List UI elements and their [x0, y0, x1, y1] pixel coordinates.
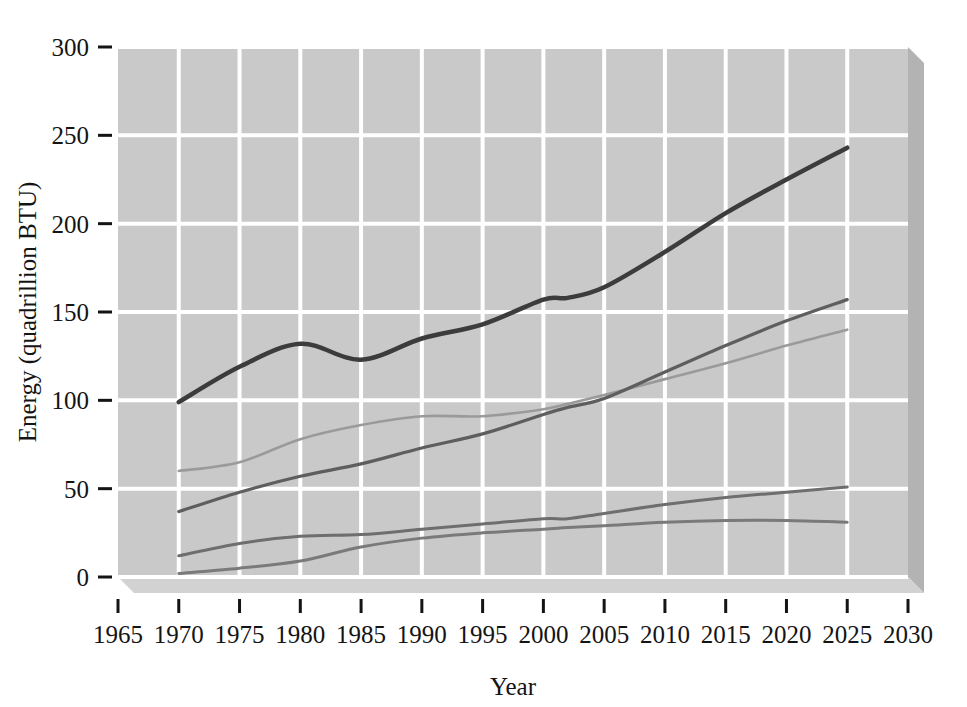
x-tick-label: 1980 [275, 621, 325, 648]
plot-bevel-right [908, 47, 924, 593]
y-tick-label: 100 [52, 387, 90, 414]
y-tick-label: 300 [52, 34, 90, 61]
y-tick-label: 0 [77, 564, 90, 591]
x-tick-label: 2020 [761, 621, 811, 648]
y-tick-label: 150 [52, 299, 90, 326]
x-tick-label: 1985 [336, 621, 386, 648]
x-tick-label: 2010 [640, 621, 690, 648]
y-tick-label: 50 [64, 476, 89, 503]
x-axis: 1965197019751980198519901995200020052010… [93, 599, 933, 648]
chart-svg: 050100150200250300 196519701975198019851… [0, 0, 967, 707]
y-tick-label: 200 [52, 211, 90, 238]
x-tick-label: 1995 [458, 621, 508, 648]
x-tick-label: 2005 [579, 621, 629, 648]
y-axis: 050100150200250300 [52, 34, 113, 591]
x-tick-label: 2025 [822, 621, 872, 648]
x-tick-label: 1990 [397, 621, 447, 648]
x-tick-label: 1965 [93, 621, 143, 648]
y-tick-label: 250 [52, 122, 90, 149]
x-tick-label: 2015 [701, 621, 751, 648]
x-tick-label: 1970 [154, 621, 204, 648]
y-axis-title: Energy (quadrillion BTU) [14, 182, 42, 443]
x-tick-label: 2000 [518, 621, 568, 648]
x-axis-title: Year [490, 673, 537, 700]
chart-figure: 050100150200250300 196519701975198019851… [0, 0, 967, 707]
x-tick-label: 1975 [215, 621, 265, 648]
x-tick-label: 2030 [883, 621, 933, 648]
plot-bevel-bottom [118, 577, 924, 593]
